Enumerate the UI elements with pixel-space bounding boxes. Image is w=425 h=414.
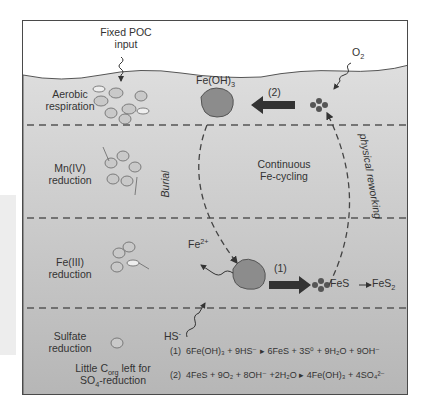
microbe-sulfate — [111, 338, 123, 348]
zone-mn-label: Mn(IV)reduction — [34, 162, 106, 186]
poc-input-label: Fixed POCinput — [90, 26, 162, 50]
reaction-2-label: (2) — [268, 86, 281, 98]
fes2-label: FeS2 — [372, 277, 395, 289]
fes-label: FeS — [330, 277, 349, 289]
fe2-label: Fe2+ — [188, 238, 209, 250]
feoh3-particle-top — [201, 88, 233, 117]
zone-fe-label: Fe(III)reduction — [34, 256, 106, 280]
continuous-fe-cycling-label: ContinuousFe-cycling — [244, 158, 324, 182]
equation-2: (2) 4FeS + 9O₂ + 8OH⁻ +2H₂O ▸ 4Fe(OH)₃ +… — [170, 370, 385, 380]
reaction-1-label: (1) — [274, 262, 287, 274]
o2-label: O2 — [352, 46, 364, 58]
left-margin-strip — [0, 195, 16, 355]
hs-label: HS- — [164, 330, 181, 342]
zone-aerobic-label: Aerobicrespiration — [34, 88, 106, 112]
little-corg-note: Little Corg left for SO4-reduction — [68, 362, 158, 386]
burial-label: Burial — [159, 171, 171, 198]
equation-1: (1) 6Fe(OH)₃ + 9HS⁻ ▸ 6FeS + 3S⁰ + 9H₂O … — [170, 346, 380, 356]
feoh3-label: Fe(OH)3 — [196, 74, 235, 86]
zone-sulfate-label: Sulfatereduction — [34, 330, 106, 354]
